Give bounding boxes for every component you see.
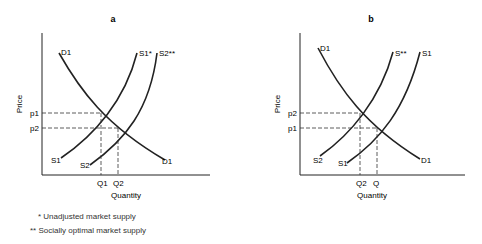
demand-label-top: D1	[61, 48, 72, 57]
price-label-1: p1	[288, 124, 297, 133]
supply-1-label-top: S1	[422, 49, 432, 58]
supply-1-label-bottom: S1	[51, 156, 61, 165]
quantity-label-1: Q1	[97, 179, 108, 188]
price-label-2: p2	[288, 109, 297, 118]
supply-1-label-bottom: S1	[338, 159, 348, 168]
x-axis-label: Quantity	[357, 191, 387, 200]
quantity-label-2: Q2	[113, 179, 124, 188]
panel-a: a Price Quantity D1 D1 S1* S2** S1 S2 p1…	[15, 14, 210, 200]
footnote-socially-optimal: ** Socially optimal market supply	[30, 226, 146, 235]
supply-2-label-bottom: S2	[313, 156, 323, 165]
quantity-label-2: Q2	[356, 179, 367, 188]
price-label-1: p1	[30, 109, 39, 118]
demand-curve	[318, 48, 420, 159]
supply-curve-1	[61, 53, 137, 158]
quantity-label-1: Q	[373, 179, 379, 188]
demand-label-bottom: D1	[162, 157, 173, 166]
supply-1-label-top: S1*	[139, 49, 152, 58]
y-axis-label: Price	[15, 94, 24, 113]
price-label-2: p2	[30, 124, 39, 133]
supply-2-label-top: S**	[395, 49, 407, 58]
supply-2-label-bottom: S2	[80, 161, 90, 170]
supply-demand-diagrams: a Price Quantity D1 D1 S1* S2** S1 S2 p1…	[0, 0, 482, 244]
x-axis-label: Quantity	[111, 191, 141, 200]
demand-curve	[59, 53, 165, 160]
supply-2-label-top: S2**	[159, 49, 175, 58]
demand-label-top: D1	[320, 44, 331, 53]
panel-b-title: b	[368, 14, 374, 24]
supply-curve-2	[320, 52, 393, 156]
y-axis-label: Price	[273, 94, 282, 113]
demand-label-bottom: D1	[421, 156, 432, 165]
panel-a-title: a	[110, 14, 116, 24]
panel-b: b Price Quantity D1 D1 S** S1 S2 S1 p2 p…	[273, 14, 465, 200]
footnote-unadjusted: * Unadjusted market supply	[38, 212, 136, 221]
